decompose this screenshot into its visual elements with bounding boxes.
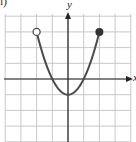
closed-endpoint: [95, 28, 103, 36]
graph: [0, 0, 136, 142]
open-endpoint: [33, 28, 40, 35]
